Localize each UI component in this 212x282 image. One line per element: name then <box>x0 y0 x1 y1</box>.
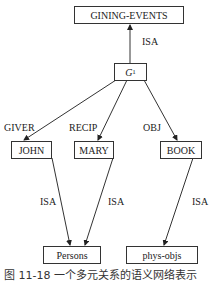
label-book-isa: ISA <box>192 196 208 207</box>
label-recip: RECIP <box>69 122 97 133</box>
label-obj: OBJ <box>143 122 161 133</box>
edge-book-isa <box>164 158 193 245</box>
node-mary: MARY <box>74 141 114 159</box>
node-gining-events: GINING-EVENTS <box>74 6 184 24</box>
node-book: BOOK <box>160 141 202 159</box>
label-mary-isa: ISA <box>108 196 124 207</box>
node-phys-objs: phys-objs <box>126 246 198 264</box>
figure-caption: 图 11-18 一个多元关系的语义网络表示 <box>4 266 197 282</box>
label-g1-isa: ISA <box>142 36 158 47</box>
node-g1: G1 <box>114 63 147 81</box>
label-john-isa: ISA <box>40 196 56 207</box>
node-persons: Persons <box>43 246 101 264</box>
node-g1-sub: 1 <box>132 68 136 76</box>
node-g1-base: G <box>125 67 132 78</box>
node-john: JOHN <box>11 141 52 159</box>
label-giver: GIVER <box>4 122 35 133</box>
